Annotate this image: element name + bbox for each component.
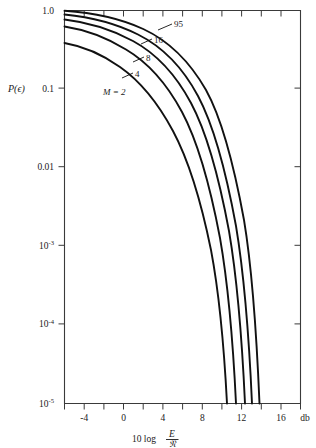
plot-frame bbox=[65, 11, 301, 404]
x-axis-ticks bbox=[65, 404, 301, 410]
curve-label-m8: 8 bbox=[146, 53, 151, 63]
curve-m95 bbox=[65, 11, 260, 404]
y-tick-label-3: 0.01 bbox=[37, 162, 54, 172]
figure-container: 1.0 0.1 0.01 10-3 10-4 10-5 P(ϵ) -4 0 4 … bbox=[0, 0, 316, 448]
curve-m2 bbox=[65, 43, 228, 404]
curve-m4 bbox=[65, 27, 237, 404]
curve-label-m2: M = 2 bbox=[102, 87, 126, 97]
x-tick-label-3: 4 bbox=[161, 413, 166, 423]
error-probability-chart: 1.0 0.1 0.01 10-3 10-4 10-5 P(ϵ) -4 0 4 … bbox=[0, 0, 316, 448]
x-tick-label-1: -4 bbox=[80, 413, 88, 423]
y-tick-labels: 1.0 0.1 0.01 10-3 10-4 10-5 bbox=[37, 6, 54, 409]
right-axis-ticks bbox=[295, 88, 301, 324]
y-tick-label-4: 10-3 bbox=[39, 239, 55, 251]
x-axis-unit-label: db bbox=[300, 413, 310, 423]
x-axis-title-numerator: E bbox=[168, 429, 175, 439]
y-tick-label-5: 10-4 bbox=[39, 318, 55, 330]
x-axis-title-prefix: 10 log bbox=[132, 434, 156, 444]
curve-label-m16: 16 bbox=[154, 35, 164, 45]
y-tick-label-1: 1.0 bbox=[42, 6, 54, 16]
leader-m95 bbox=[158, 24, 172, 30]
x-tick-label-6: 16 bbox=[276, 413, 286, 423]
y-tick-label-6: 10-5 bbox=[39, 397, 55, 409]
x-tick-labels: -4 0 4 8 12 16 db bbox=[80, 413, 310, 423]
y-axis-ticks bbox=[59, 88, 65, 324]
x-axis-title: 10 log E 𝔑 bbox=[132, 429, 179, 448]
curves-group bbox=[65, 11, 260, 404]
x-tick-label-2: 0 bbox=[121, 413, 126, 423]
y-tick-label-2: 0.1 bbox=[42, 84, 54, 94]
x-tick-label-5: 12 bbox=[237, 413, 247, 423]
curve-label-m4: 4 bbox=[135, 69, 140, 79]
top-axis-ticks bbox=[84, 11, 281, 17]
y-axis-title: P(ϵ) bbox=[7, 83, 25, 95]
x-axis-title-denominator: 𝔑 bbox=[169, 439, 177, 448]
curve-m8 bbox=[65, 20, 246, 404]
curve-label-m95: 95 bbox=[174, 19, 184, 29]
x-tick-label-4: 8 bbox=[200, 413, 205, 423]
